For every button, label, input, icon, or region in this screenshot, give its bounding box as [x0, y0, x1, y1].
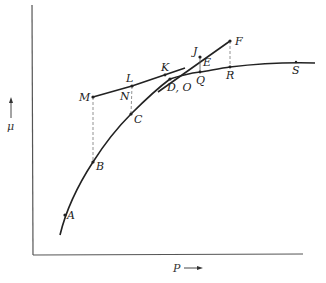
label-B: B — [95, 160, 104, 173]
point-Q — [199, 71, 202, 74]
point-B — [91, 160, 94, 163]
point-R — [229, 66, 232, 69]
label-L: L — [125, 72, 133, 85]
label-E: E — [202, 56, 211, 69]
point-F — [228, 39, 231, 42]
label-Q: Q — [196, 74, 205, 87]
label-M: M — [78, 91, 91, 104]
y-axis-arrow-icon — [9, 97, 13, 118]
label-F: F — [234, 35, 243, 48]
label-C: C — [134, 113, 143, 126]
label-N: N — [119, 90, 130, 103]
point-markers — [63, 39, 297, 216]
point-C — [129, 112, 132, 115]
point-K — [164, 74, 167, 77]
x-axis-arrow-icon — [184, 266, 203, 270]
y-axis — [32, 5, 33, 255]
point-S — [295, 61, 297, 63]
label-J: J — [191, 45, 198, 58]
x-axis-label: P — [172, 262, 181, 275]
y-axis-label: μ — [7, 120, 14, 133]
point-M — [91, 95, 94, 98]
label-R: R — [225, 69, 234, 82]
diagram-canvas: μ P A B C D, O M L N K J E Q F R S — [0, 0, 326, 283]
x-axis — [33, 254, 303, 255]
label-K: K — [160, 61, 170, 74]
label-A: A — [66, 209, 75, 222]
label-DO: D, O — [166, 81, 191, 94]
dashed-L-C — [131, 86, 132, 114]
label-S: S — [292, 64, 300, 77]
point-J — [198, 55, 201, 58]
